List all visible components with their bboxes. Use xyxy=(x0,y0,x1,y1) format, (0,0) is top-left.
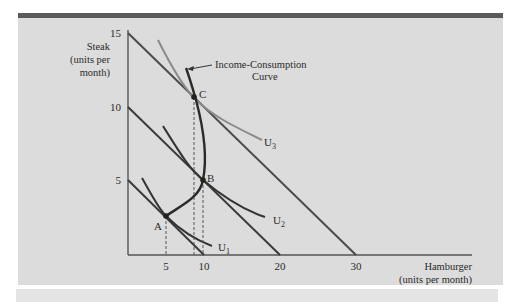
y-axis-label-1: Steak xyxy=(87,41,111,52)
icc-label-line2: Curve xyxy=(252,71,278,82)
y-axis-label-2: (units per xyxy=(70,54,110,66)
y-tick-15: 15 xyxy=(110,27,122,39)
label-a: A xyxy=(154,220,162,232)
label-u1: U1 xyxy=(218,241,230,256)
y-axis-label-3: month) xyxy=(80,67,111,79)
label-b: B xyxy=(207,172,214,184)
x-axis-label-2: (units per month) xyxy=(399,274,472,286)
x-axis-label-1: Hamburger xyxy=(424,261,472,272)
label-c: C xyxy=(199,88,206,100)
x-tick-20: 20 xyxy=(275,260,287,272)
label-u3: U3 xyxy=(264,136,276,151)
point-b xyxy=(200,177,206,183)
x-tick-10: 10 xyxy=(199,260,211,272)
label-u2: U2 xyxy=(273,214,285,229)
point-c xyxy=(191,94,197,100)
x-tick-30: 30 xyxy=(351,260,363,272)
icc-label-line1: Income-Consumption xyxy=(215,59,307,70)
x-tick-5: 5 xyxy=(163,260,169,272)
y-tick-5: 5 xyxy=(116,174,122,186)
icc-diagram: C B A Income-Consumption Curve U3 U2 U1 … xyxy=(0,0,515,302)
indifference-curve-u3 xyxy=(158,40,262,140)
y-tick-10: 10 xyxy=(110,101,122,113)
point-a xyxy=(163,213,169,219)
